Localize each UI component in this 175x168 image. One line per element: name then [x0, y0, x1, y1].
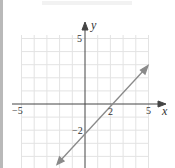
x-axis-label: x [161, 104, 168, 118]
line-series [57, 66, 148, 165]
tick-x-2: 2 [108, 106, 113, 117]
tick-x-neg5: −5 [12, 105, 23, 116]
coordinate-plane: y x −5 2 5 5 −2 [0, 0, 175, 168]
axes [12, 22, 166, 168]
tick-y-5: 5 [77, 33, 82, 44]
tick-x-5: 5 [146, 105, 151, 116]
y-axis-label: y [90, 18, 97, 32]
tick-y-neg2: −2 [72, 125, 83, 136]
y-axis-arrow-icon [82, 22, 88, 30]
